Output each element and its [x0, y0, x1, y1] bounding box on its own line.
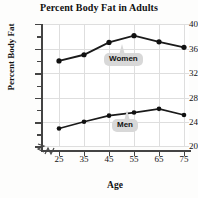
callout-label-women: Women — [104, 53, 143, 66]
x-axis-title: Age — [40, 180, 190, 190]
y-tick-label-32: 32 — [164, 68, 198, 78]
y-tick-label-20: 20 — [164, 141, 198, 151]
y-axis-title: Percent Body Fat — [6, 2, 16, 112]
y-tick-label-36: 36 — [164, 44, 198, 54]
datapoint — [157, 107, 162, 112]
datapoint — [107, 113, 112, 118]
y-tick-24 — [35, 122, 42, 123]
datapoint — [131, 33, 136, 38]
datapoint — [132, 110, 137, 115]
y-tick-label-40: 40 — [164, 19, 198, 29]
y-tick-40 — [35, 24, 42, 25]
x-axis-break-icon — [44, 146, 56, 156]
callout-label-men: Men — [112, 119, 138, 132]
y-tick-label-24: 24 — [164, 117, 198, 127]
y-axis-line — [41, 24, 43, 151]
y-tick-minor-22 — [37, 134, 42, 135]
y-tick-label-28: 28 — [164, 93, 198, 103]
y-tick-28 — [35, 98, 42, 99]
x-tick-label-35: 35 — [71, 154, 97, 164]
datapoint — [82, 119, 87, 124]
y-tick-36 — [35, 49, 42, 50]
datapoint — [81, 52, 86, 57]
x-tick-label-75: 75 — [171, 154, 197, 164]
datapoint — [56, 58, 61, 63]
datapoint — [156, 39, 161, 44]
y-tick-minor-38 — [37, 36, 42, 37]
x-tick-label-45: 45 — [96, 154, 122, 164]
datapoint — [57, 126, 62, 131]
y-tick-minor-34 — [37, 61, 42, 62]
y-tick-minor-26 — [37, 110, 42, 111]
datapoint — [106, 40, 111, 45]
y-tick-32 — [35, 73, 42, 74]
x-tick-label-65: 65 — [146, 154, 172, 164]
chart-title: Percent Body Fat in Adults — [0, 2, 198, 13]
x-tick-label-55: 55 — [121, 154, 147, 164]
y-tick-minor-30 — [37, 86, 42, 87]
body-fat-line-chart: Percent Body Fat in Adults Percent Body … — [0, 0, 198, 198]
